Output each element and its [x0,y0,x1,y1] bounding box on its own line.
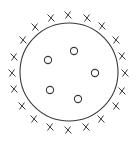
circle-diagram [0,0,138,142]
